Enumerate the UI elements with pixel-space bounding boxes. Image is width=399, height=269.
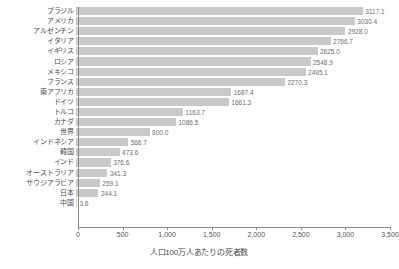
bar (76, 158, 111, 166)
category-label: ロシア (0, 58, 76, 66)
x-tick-mark (212, 227, 213, 230)
bar-track: 2928.0 (76, 26, 398, 36)
chart-row: フランス 2270.3 (0, 77, 398, 87)
chart-row: 中国 3.6 (0, 198, 398, 208)
category-label: メキシコ (0, 68, 76, 76)
chart-row: メキシコ 2495.1 (0, 67, 398, 77)
bar-track: 3030.4 (76, 16, 398, 26)
category-label: ブラジル (0, 7, 76, 15)
chart-row: ロシア 2548.9 (0, 56, 398, 66)
bar (76, 57, 311, 65)
x-tick-label: 500 (117, 231, 129, 239)
bar-track: 2548.9 (76, 56, 398, 66)
bar (76, 27, 345, 35)
bar-value-label: 2548.9 (311, 58, 333, 65)
bar (76, 148, 120, 156)
x-tick-label: 1,000 (158, 231, 176, 239)
bar-track: 1661.3 (76, 97, 398, 107)
bar-value-label: 1687.4 (231, 88, 253, 95)
chart-row: サウジアラビア 259.1 (0, 178, 398, 188)
x-tick-mark (78, 227, 79, 230)
bar-value-label: 259.1 (100, 179, 119, 186)
x-tick-label: 2,000 (248, 231, 266, 239)
chart-row: ドイツ 1661.3 (0, 97, 398, 107)
chart-row: イギリス 2625.0 (0, 46, 398, 56)
bar-track: 1086.5 (76, 117, 398, 127)
x-axis-line (78, 227, 390, 228)
bar (76, 47, 318, 55)
bar (76, 179, 100, 187)
chart-row: 日本 244.1 (0, 188, 398, 198)
bar-track: 3117.1 (76, 6, 398, 16)
bar-value-label: 2270.3 (285, 78, 307, 85)
category-label: インド (0, 158, 76, 166)
bar-track: 2270.3 (76, 77, 398, 87)
category-label: サウジアラビア (0, 179, 76, 187)
bar (76, 37, 331, 45)
bar-track: 2625.0 (76, 46, 398, 56)
y-axis-line (78, 7, 79, 228)
bar-value-label: 376.6 (111, 159, 130, 166)
bar-track: 1163.7 (76, 107, 398, 117)
bar-track: 2495.1 (76, 67, 398, 77)
category-label: イギリス (0, 47, 76, 55)
bar-track: 2766.7 (76, 36, 398, 46)
x-tick-mark (256, 227, 257, 230)
category-label: 中国 (0, 199, 76, 207)
x-axis-title: 人口100万人あたりの死者数 (0, 248, 398, 258)
category-label: アメリカ (0, 17, 76, 25)
bar-value-label: 800.0 (150, 129, 169, 136)
bar-value-label: 3117.1 (363, 8, 385, 15)
bar-value-label: 473.6 (120, 149, 139, 156)
bar (76, 108, 183, 116)
bar-track: 259.1 (76, 178, 398, 188)
chart-row: アルゼンチン 2928.0 (0, 26, 398, 36)
bar (76, 128, 150, 136)
bar-value-label: 2766.7 (331, 38, 353, 45)
chart-row: インドネシア 566.7 (0, 137, 398, 147)
chart-row: ブラジル 3117.1 (0, 6, 398, 16)
chart-row: アメリカ 3030.4 (0, 16, 398, 26)
bar (76, 169, 107, 177)
bar-value-label: 1086.5 (176, 119, 198, 126)
bar-value-label: 3030.4 (355, 18, 377, 25)
category-label: トルコ (0, 108, 76, 116)
category-label: ドイツ (0, 98, 76, 106)
bar (76, 189, 98, 197)
category-label: カナダ (0, 118, 76, 126)
category-label: 世界 (0, 128, 76, 136)
x-tick-mark (167, 227, 168, 230)
chart-row: 南アフリカ 1687.4 (0, 87, 398, 97)
bar (76, 68, 306, 76)
x-tick-label: 3,500 (381, 231, 399, 239)
bar-value-label: 2928.0 (345, 28, 367, 35)
bar-track: 566.7 (76, 137, 398, 147)
x-tick-label: 3,000 (337, 231, 355, 239)
x-tick-mark (123, 227, 124, 230)
chart-row: オーストラリア 341.3 (0, 168, 398, 178)
x-tick-mark (345, 227, 346, 230)
bar (76, 98, 229, 106)
bar-value-label: 566.7 (128, 139, 147, 146)
x-tick-label: 1,500 (203, 231, 221, 239)
bar (76, 138, 128, 146)
chart-row: インド 376.6 (0, 157, 398, 167)
bar-track: 1687.4 (76, 87, 398, 97)
bar-value-label: 1163.7 (183, 108, 205, 115)
category-label: イタリア (0, 37, 76, 45)
x-tick-mark (390, 227, 391, 230)
category-label: 南アフリカ (0, 88, 76, 96)
bar (76, 88, 231, 96)
bar-value-label: 341.3 (107, 169, 126, 176)
category-label: アルゼンチン (0, 27, 76, 35)
category-label: 韓国 (0, 148, 76, 156)
chart-row: トルコ 1163.7 (0, 107, 398, 117)
category-label: 日本 (0, 189, 76, 197)
x-tick-label: 0 (76, 231, 80, 239)
bar-track: 473.6 (76, 147, 398, 157)
category-label: インドネシア (0, 138, 76, 146)
chart-row: 韓国 473.6 (0, 147, 398, 157)
bar-track: 800.0 (76, 127, 398, 137)
chart-row: カナダ 1086.5 (0, 117, 398, 127)
